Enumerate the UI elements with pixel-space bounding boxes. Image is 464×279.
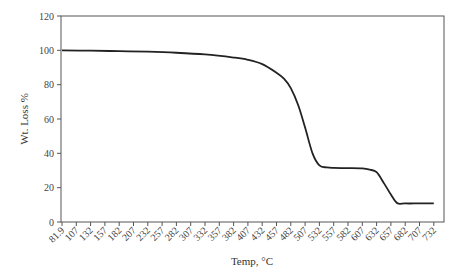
y-tick-label: 60 [44,114,54,125]
y-axis: 020406080100120 [39,11,61,228]
y-tick-label: 80 [44,79,54,90]
y-axis-title: Wt. Loss % [18,93,30,145]
tga-line-chart: 020406080100120 81.910713215718220723225… [0,0,464,279]
data-line [62,50,434,204]
plot-frame [61,16,444,222]
y-tick-label: 100 [39,45,54,56]
x-axis-title: Temp, °C [231,255,273,267]
y-tick-label: 40 [44,148,54,159]
y-tick-label: 120 [39,11,54,22]
y-tick-label: 20 [44,182,54,193]
x-tick-label: 732 [420,225,438,243]
y-tick-label: 0 [49,217,54,228]
x-axis: 81.9107132157182207232257282307332357382… [46,222,438,245]
